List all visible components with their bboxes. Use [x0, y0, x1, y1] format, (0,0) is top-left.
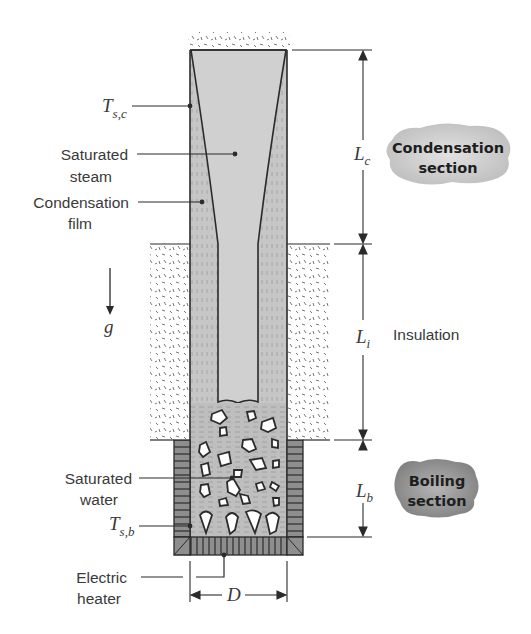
label-lc: Lc: [353, 143, 371, 168]
label-gravity: g: [104, 316, 114, 337]
top-insulation-strip: [188, 32, 290, 50]
label-li: Li: [355, 326, 371, 351]
badge-condensation-section: Condensation section: [386, 123, 510, 184]
svg-text:section: section: [418, 160, 477, 176]
label-insulation: Insulation: [393, 326, 459, 343]
label-electric-heater-2: heater: [77, 590, 121, 607]
badge-boiling-section: Boiling section: [394, 459, 478, 518]
label-electric-heater-1: Electric: [76, 569, 127, 586]
label-ts-b: Ts,b: [109, 513, 135, 539]
label-diameter: D: [226, 584, 241, 605]
label-saturated-water-2: water: [79, 491, 118, 508]
label-condensation-film-1: Condensation: [33, 194, 129, 211]
label-saturated-steam-2: steam: [70, 168, 112, 185]
svg-text:section: section: [407, 493, 466, 509]
label-saturated-steam-1: Saturated: [61, 146, 128, 163]
svg-text:Boiling: Boiling: [409, 473, 466, 489]
label-lb: Lb: [355, 480, 374, 505]
thermosyphon-diagram: Ts,c Saturated steam Condensation film g…: [0, 0, 531, 634]
label-saturated-water-1: Saturated: [65, 470, 132, 487]
gravity-arrow: [106, 268, 114, 315]
label-ts-c: Ts,c: [102, 95, 127, 121]
label-condensation-film-2: film: [68, 215, 92, 232]
svg-text:Condensation: Condensation: [392, 140, 504, 156]
